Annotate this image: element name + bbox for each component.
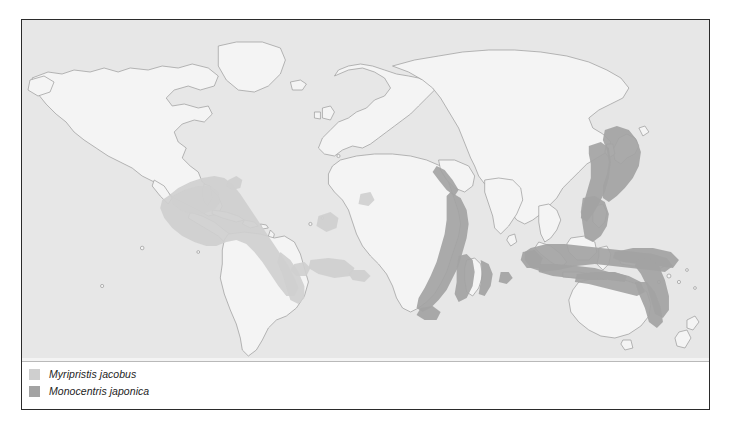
map-legend: Myripristis jacobus Monocentris japonica [22,362,709,409]
legend-item-myripristis: Myripristis jacobus [29,367,709,382]
legend-swatch-myripristis [29,369,40,380]
world-map-svg [22,20,709,361]
legend-label-monocentris: Monocentris japonica [49,385,149,398]
map-viewport [22,20,709,362]
figure-root: Myripristis jacobus Monocentris japonica [0,0,730,425]
distribution-map-figure: Myripristis jacobus Monocentris japonica [21,19,710,410]
legend-label-myripristis: Myripristis jacobus [49,368,136,381]
land-antarctica-edge [22,358,709,361]
legend-swatch-monocentris [29,386,40,397]
legend-item-monocentris: Monocentris japonica [29,384,709,399]
